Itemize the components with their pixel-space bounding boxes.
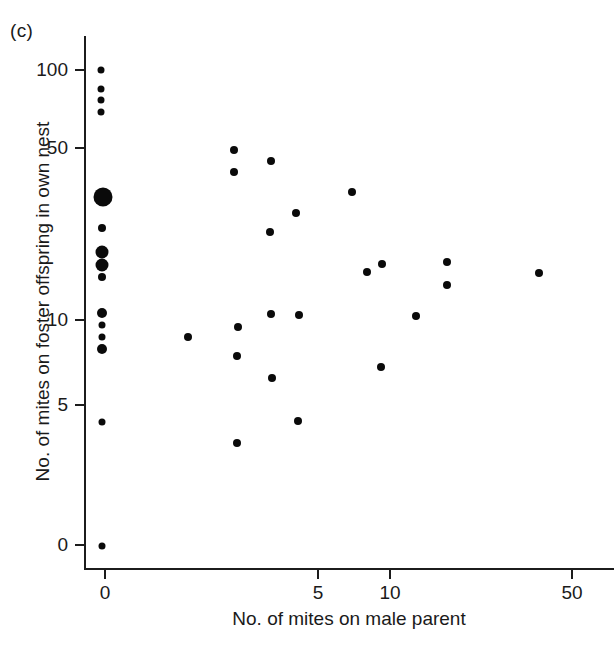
- x-tick-label-5: 5: [278, 583, 358, 602]
- data-point: [233, 439, 241, 447]
- x-tick-label-wrap-10: 10: [350, 583, 430, 584]
- data-point: [98, 97, 105, 104]
- data-point: [294, 417, 302, 425]
- data-point: [377, 363, 385, 371]
- x-tick-5: [317, 570, 319, 579]
- x-axis-line: [84, 568, 614, 570]
- data-point: [97, 344, 107, 354]
- data-point: [96, 259, 109, 272]
- x-tick-label-0: 0: [65, 583, 145, 602]
- data-point: [267, 157, 275, 165]
- data-point: [535, 269, 543, 277]
- data-point: [96, 246, 109, 259]
- data-point: [234, 323, 242, 331]
- data-point: [412, 312, 420, 320]
- data-point: [230, 146, 238, 154]
- x-tick-label-wrap-0: 0: [65, 583, 145, 584]
- x-tick-label-50: 50: [532, 583, 612, 602]
- y-tick-5: [75, 404, 84, 406]
- y-tick-10: [75, 319, 84, 321]
- data-point: [98, 109, 105, 116]
- x-tick-label-wrap-50: 50: [532, 583, 612, 584]
- data-point: [98, 273, 106, 281]
- y-tick-label-0: 0: [57, 535, 68, 554]
- data-point: [443, 281, 451, 289]
- data-point: [97, 308, 107, 318]
- data-point: [184, 333, 192, 341]
- y-axis-line: [84, 36, 86, 570]
- data-point: [99, 543, 106, 550]
- x-tick-label-wrap-5: 5: [278, 583, 358, 584]
- x-tick-50: [571, 570, 573, 579]
- data-point: [94, 188, 113, 207]
- data-point: [378, 260, 386, 268]
- y-axis-title: No. of mites on foster offspring in own …: [28, 36, 58, 567]
- data-point: [295, 311, 303, 319]
- data-point: [267, 310, 275, 318]
- data-point: [268, 374, 276, 382]
- data-point: [443, 258, 451, 266]
- y-tick-label-5: 5: [57, 395, 68, 414]
- y-tick-100: [75, 69, 84, 71]
- data-point: [292, 209, 300, 217]
- x-tick-0: [104, 570, 106, 579]
- data-point: [230, 168, 238, 176]
- data-point: [363, 268, 371, 276]
- data-point: [98, 224, 106, 232]
- data-point: [266, 228, 274, 236]
- data-point: [99, 419, 106, 426]
- x-axis-title: No. of mites on male parent: [84, 608, 614, 630]
- data-point: [348, 188, 356, 196]
- y-tick-0: [75, 544, 84, 546]
- data-point: [233, 352, 241, 360]
- figure-panel-c: (c) 051050100 051050 No. of mites on fos…: [0, 0, 614, 647]
- x-tick-10: [389, 570, 391, 579]
- data-point: [98, 67, 105, 74]
- y-tick-50: [75, 147, 84, 149]
- data-point: [99, 322, 106, 329]
- x-tick-label-10: 10: [350, 583, 430, 602]
- data-point: [98, 86, 105, 93]
- data-point: [99, 334, 106, 341]
